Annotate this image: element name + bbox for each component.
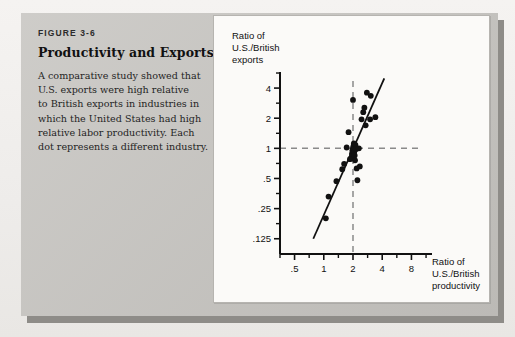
x-tick-label: 2 bbox=[350, 263, 355, 274]
data-point bbox=[354, 177, 360, 183]
y-tick-label: 4 bbox=[266, 83, 271, 94]
data-point bbox=[352, 157, 358, 163]
y-axis-label-line: exports bbox=[232, 54, 263, 65]
data-point bbox=[323, 215, 329, 221]
x-tick-label: 1 bbox=[321, 263, 326, 274]
y-axis-tick-labels: .125.25.5124 bbox=[253, 83, 272, 245]
data-point bbox=[368, 93, 374, 99]
y-tick-label: 1 bbox=[266, 143, 271, 154]
y-tick-label: .25 bbox=[258, 203, 271, 214]
data-point bbox=[334, 178, 340, 184]
x-tick-label: 8 bbox=[409, 263, 414, 274]
y-tick-label: 2 bbox=[266, 113, 271, 124]
y-axis-label-line: U.S./British bbox=[232, 42, 280, 53]
data-point bbox=[346, 129, 352, 135]
caption-line: to British exports in industries in bbox=[38, 97, 218, 111]
reference-lines bbox=[280, 81, 418, 254]
y-tick-label: .125 bbox=[253, 233, 272, 244]
figure-title: Productivity and Exports bbox=[38, 45, 218, 60]
x-axis-label: Ratio of U.S./British productivity bbox=[432, 256, 480, 291]
data-point bbox=[361, 105, 367, 111]
data-point bbox=[350, 97, 356, 103]
data-point bbox=[326, 194, 332, 200]
figure-panel: FIGURE 3-6 Productivity and Exports A co… bbox=[21, 13, 498, 316]
x-axis-label-line: productivity bbox=[432, 280, 480, 291]
page-root: FIGURE 3-6 Productivity and Exports A co… bbox=[0, 0, 515, 337]
data-point bbox=[356, 145, 362, 151]
data-point bbox=[344, 145, 350, 151]
x-tick-label: 4 bbox=[380, 263, 385, 274]
caption-line: dot represents a different industry. bbox=[38, 140, 218, 154]
data-point bbox=[357, 164, 363, 170]
y-axis-label-line: Ratio of bbox=[232, 30, 265, 41]
data-point bbox=[339, 166, 345, 172]
figure-body-text: A comparative study showed that U.S. exp… bbox=[38, 69, 218, 154]
data-point bbox=[341, 161, 347, 167]
y-tick-label: .5 bbox=[263, 173, 271, 184]
caption-line: A comparative study showed that bbox=[38, 69, 218, 83]
y-axis-label: Ratio of U.S./British exports bbox=[232, 30, 280, 65]
caption-line: which the United States had high bbox=[38, 112, 218, 126]
scatter-chart: Ratio of U.S./British exports Ratio of U… bbox=[214, 16, 489, 302]
x-axis-label-line: Ratio of bbox=[432, 256, 465, 267]
figure-caption-column: FIGURE 3-6 Productivity and Exports A co… bbox=[38, 28, 218, 154]
data-point bbox=[372, 114, 378, 120]
data-point bbox=[367, 116, 373, 122]
x-axis-tick-labels: .51248 bbox=[291, 263, 415, 274]
x-tick-label: .5 bbox=[291, 263, 299, 274]
data-point bbox=[359, 116, 365, 122]
caption-line: U.S. exports were high relative bbox=[38, 83, 218, 97]
chart-card: Ratio of U.S./British exports Ratio of U… bbox=[213, 15, 490, 303]
x-axis-label-line: U.S./British bbox=[432, 268, 480, 279]
caption-line: relative labor productivity. Each bbox=[38, 126, 218, 140]
data-point bbox=[363, 122, 369, 128]
figure-number: FIGURE 3-6 bbox=[38, 28, 218, 38]
